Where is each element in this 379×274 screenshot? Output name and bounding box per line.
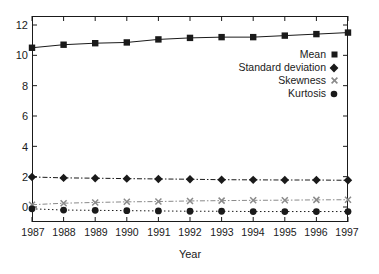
- x-tick-label: 1997: [325, 226, 369, 238]
- cross-marker-icon: [326, 74, 342, 87]
- legend-label: Skewness: [278, 74, 326, 87]
- legend-item-kurtosis[interactable]: Kurtosis: [196, 87, 342, 100]
- legend-label: Standard deviation: [238, 61, 326, 74]
- legend: Mean Standard deviation Skewness Kurtosi…: [196, 48, 342, 100]
- circle-marker-icon: [326, 87, 342, 100]
- legend-label: Kurtosis: [288, 87, 326, 100]
- y-tick-label: 6: [2, 111, 28, 122]
- chart-screenshot: 12 10 8 6 4 2 0 1987 1988 1989 1990 1991…: [0, 0, 379, 274]
- legend-label: Mean: [300, 48, 326, 61]
- y-tick-label: 2: [2, 172, 28, 183]
- x-axis-title: Year: [32, 248, 348, 260]
- y-tick-label: 12: [2, 20, 28, 31]
- plot-frame: [32, 16, 348, 222]
- y-tick-label: 10: [2, 50, 28, 61]
- square-marker-icon: [326, 48, 342, 61]
- diamond-marker-icon: [326, 61, 342, 74]
- y-tick-label: 8: [2, 81, 28, 92]
- y-tick-label: 4: [2, 142, 28, 153]
- legend-item-standard-deviation[interactable]: Standard deviation: [196, 61, 342, 74]
- legend-item-mean[interactable]: Mean: [196, 48, 342, 61]
- y-tick-label: 0: [2, 202, 28, 213]
- legend-item-skewness[interactable]: Skewness: [196, 74, 342, 87]
